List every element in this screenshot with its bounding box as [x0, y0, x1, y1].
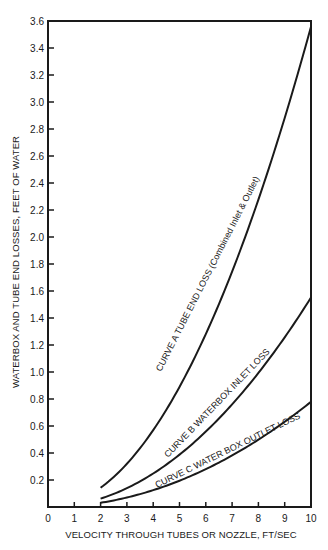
y-tick-label: 1.2 — [30, 340, 44, 351]
y-tick-label: 3.2 — [30, 70, 44, 81]
x-tick-label: 1 — [72, 513, 78, 524]
y-tick-label: 0.4 — [30, 448, 44, 459]
y-tick-label: 0.8 — [30, 394, 44, 405]
x-tick-label: 2 — [98, 513, 104, 524]
y-tick-label: 3.6 — [30, 16, 44, 27]
x-tick-label: 3 — [124, 513, 130, 524]
x-axis-title: VELOCITY THROUGH TUBES OR NOZZLE, FT/SEC — [65, 529, 297, 540]
y-tick-label: 2.8 — [30, 124, 44, 135]
y-tick-label: 1.8 — [30, 259, 44, 270]
chart: 012345678910 0.20.40.60.81.01.21.41.61.8… — [0, 0, 328, 550]
y-tick-label: 0.6 — [30, 421, 44, 432]
y-tick-label: 2.6 — [30, 151, 44, 162]
y-tick-label: 2.0 — [30, 232, 44, 243]
x-tick-label: 4 — [150, 513, 156, 524]
y-tick-label: 2.2 — [30, 205, 44, 216]
x-tick-label: 10 — [305, 513, 317, 524]
x-axis-ticks: 012345678910 — [45, 502, 317, 524]
x-tick-label: 8 — [256, 513, 262, 524]
curve-labels: CURVE A TUBE END LOSS (Combined Inlet & … — [153, 175, 301, 490]
y-axis-ticks: 0.20.40.60.81.01.21.41.61.82.02.22.42.62… — [30, 16, 54, 486]
x-tick-label: 6 — [203, 513, 209, 524]
y-tick-label: 1.6 — [30, 286, 44, 297]
y-tick-label: 3.0 — [30, 97, 44, 108]
y-tick-label: 0.2 — [30, 475, 44, 486]
curve-a-label: CURVE A TUBE END LOSS (Combined Inlet & … — [154, 175, 262, 373]
x-tick-label: 9 — [282, 513, 288, 524]
y-tick-label: 1.0 — [30, 367, 44, 378]
x-tick-label: 5 — [177, 513, 183, 524]
x-tick-label: 0 — [45, 513, 51, 524]
x-tick-label: 7 — [229, 513, 235, 524]
y-tick-label: 2.4 — [30, 178, 44, 189]
y-tick-label: 1.4 — [30, 313, 44, 324]
y-axis-title: WATERBOX AND TUBE END LOSSES, FEET OF WA… — [10, 136, 21, 388]
y-tick-label: 3.4 — [30, 43, 44, 54]
